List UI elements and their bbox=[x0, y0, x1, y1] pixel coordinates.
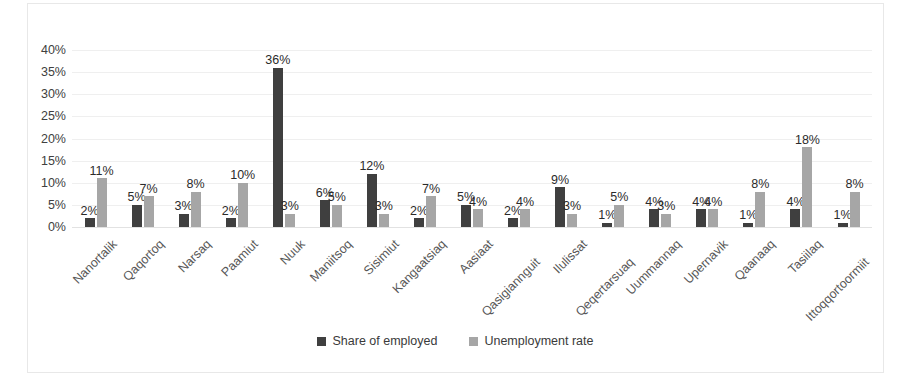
bar-unemployment-rate[interactable]: 10% bbox=[238, 183, 248, 227]
bar-share-of-employed[interactable]: 6% bbox=[320, 200, 330, 227]
bar-share-of-employed[interactable]: 2% bbox=[85, 218, 95, 227]
category-label: Aasiaat bbox=[457, 237, 496, 276]
x-axis-category-labels: NanortalikQaqortoqNarsaqPaamiutNuukManii… bbox=[72, 233, 872, 333]
bar-unemployment-rate[interactable]: 8% bbox=[755, 192, 765, 227]
bar-groups: 2%11%5%7%3%8%2%10%36%3%6%5%12%3%2%7%5%4%… bbox=[72, 50, 872, 227]
bar-unemployment-rate[interactable]: 3% bbox=[379, 214, 389, 227]
bar-group: 2%11% bbox=[72, 50, 119, 227]
bar-group: 5%4% bbox=[449, 50, 496, 227]
bar-share-of-employed[interactable]: 1% bbox=[602, 223, 612, 227]
bar-value-label: 5% bbox=[328, 191, 346, 204]
category-label: Tasiilaq bbox=[786, 237, 825, 276]
legend-item[interactable]: Unemployment rate bbox=[469, 334, 593, 348]
bar-unemployment-rate[interactable]: 8% bbox=[850, 192, 860, 227]
bar-value-label: 8% bbox=[845, 178, 863, 191]
bar-group: 1%5% bbox=[590, 50, 637, 227]
bar-share-of-employed[interactable]: 1% bbox=[838, 223, 848, 227]
bar-value-label: 4% bbox=[516, 196, 534, 209]
bar-pair: 2%10% bbox=[213, 50, 260, 227]
bar-group: 1%8% bbox=[731, 50, 778, 227]
category-label: Ilulissat bbox=[551, 237, 590, 276]
legend-item[interactable]: Share of employed bbox=[317, 334, 437, 348]
bar-share-of-employed[interactable]: 2% bbox=[414, 218, 424, 227]
legend-label: Unemployment rate bbox=[484, 334, 593, 348]
category-label: Qaqortoq bbox=[120, 237, 167, 284]
bar-share-of-employed[interactable]: 3% bbox=[179, 214, 189, 227]
bar-value-label: 4% bbox=[469, 196, 487, 209]
bar-unemployment-rate[interactable]: 11% bbox=[97, 178, 107, 227]
gridline bbox=[72, 227, 872, 228]
category-label: Qasigiannguit bbox=[479, 255, 543, 319]
bar-value-label: 3% bbox=[375, 200, 393, 213]
y-axis-tick-label: 5% bbox=[48, 198, 66, 212]
bar-value-label: 8% bbox=[187, 178, 205, 191]
category-label: Qaanaaq bbox=[732, 237, 778, 283]
bar-group: 2%7% bbox=[401, 50, 448, 227]
y-axis-tick-label: 20% bbox=[41, 132, 66, 146]
category-label: Maniitsoq bbox=[307, 237, 355, 285]
legend-swatch-icon bbox=[469, 337, 478, 346]
bar-value-label: 5% bbox=[610, 191, 628, 204]
category-label: Ittoqqortoormiit bbox=[804, 255, 873, 324]
category-label: Upernavik bbox=[681, 237, 731, 287]
bar-unemployment-rate[interactable]: 3% bbox=[567, 214, 577, 227]
bar-pair: 4%18% bbox=[778, 50, 825, 227]
bar-pair: 12%3% bbox=[354, 50, 401, 227]
bar-unemployment-rate[interactable]: 5% bbox=[332, 205, 342, 227]
bar-group: 2%4% bbox=[496, 50, 543, 227]
bar-group: 4%3% bbox=[637, 50, 684, 227]
y-axis-tick-label: 30% bbox=[41, 87, 66, 101]
category-label: Nanortalik bbox=[70, 237, 120, 287]
bar-pair: 1%8% bbox=[731, 50, 778, 227]
bar-unemployment-rate[interactable]: 4% bbox=[708, 209, 718, 227]
bar-share-of-employed[interactable]: 2% bbox=[508, 218, 518, 227]
bar-group: 4%18% bbox=[778, 50, 825, 227]
bar-pair: 2%7% bbox=[401, 50, 448, 227]
category-label: Narsaq bbox=[175, 237, 213, 275]
bar-pair: 6%5% bbox=[307, 50, 354, 227]
y-axis-tick-label: 40% bbox=[41, 43, 66, 57]
bar-value-label: 3% bbox=[657, 200, 675, 213]
bar-group: 5%7% bbox=[119, 50, 166, 227]
bar-share-of-employed[interactable]: 2% bbox=[226, 218, 236, 227]
legend-swatch-icon bbox=[317, 337, 326, 346]
bar-group: 4%4% bbox=[684, 50, 731, 227]
bar-pair: 5%7% bbox=[119, 50, 166, 227]
bar-share-of-employed[interactable]: 4% bbox=[790, 209, 800, 227]
bar-group: 9%3% bbox=[543, 50, 590, 227]
bar-unemployment-rate[interactable]: 3% bbox=[661, 214, 671, 227]
bar-pair: 3%8% bbox=[166, 50, 213, 227]
bar-group: 12%3% bbox=[354, 50, 401, 227]
bar-group: 6%5% bbox=[307, 50, 354, 227]
bar-unemployment-rate[interactable]: 4% bbox=[520, 209, 530, 227]
bar-unemployment-rate[interactable]: 7% bbox=[144, 196, 154, 227]
category-label: Paamiut bbox=[218, 237, 260, 279]
bar-unemployment-rate[interactable]: 3% bbox=[285, 214, 295, 227]
y-axis-tick-label: 35% bbox=[41, 65, 66, 79]
bar-group: 36%3% bbox=[260, 50, 307, 227]
bar-value-label: 4% bbox=[704, 196, 722, 209]
bar-value-label: 36% bbox=[265, 54, 290, 67]
category-label: Nuuk bbox=[277, 237, 308, 268]
bar-unemployment-rate[interactable]: 4% bbox=[473, 209, 483, 227]
bar-share-of-employed[interactable]: 1% bbox=[743, 223, 753, 227]
bar-value-label: 10% bbox=[230, 169, 255, 182]
bar-pair: 1%5% bbox=[590, 50, 637, 227]
plot-area: 40%35%30%25%20%15%10%5%0% 2%11%5%7%3%8%2… bbox=[72, 50, 872, 227]
bar-unemployment-rate[interactable]: 8% bbox=[191, 192, 201, 227]
bar-unemployment-rate[interactable]: 5% bbox=[614, 205, 624, 227]
bar-unemployment-rate[interactable]: 7% bbox=[426, 196, 436, 227]
bar-value-label: 18% bbox=[795, 134, 820, 147]
bar-value-label: 9% bbox=[551, 174, 569, 187]
bar-share-of-employed[interactable]: 5% bbox=[132, 205, 142, 227]
category-label: Sisimiut bbox=[361, 237, 402, 278]
bar-pair: 1%8% bbox=[825, 50, 872, 227]
bar-group: 3%8% bbox=[166, 50, 213, 227]
bar-group: 2%10% bbox=[213, 50, 260, 227]
bar-pair: 4%3% bbox=[637, 50, 684, 227]
bar-pair: 5%4% bbox=[449, 50, 496, 227]
y-axis-tick-label: 0% bbox=[48, 220, 66, 234]
bar-value-label: 12% bbox=[359, 160, 384, 173]
bar-share-of-employed[interactable]: 4% bbox=[696, 209, 706, 227]
bar-unemployment-rate[interactable]: 18% bbox=[802, 147, 812, 227]
